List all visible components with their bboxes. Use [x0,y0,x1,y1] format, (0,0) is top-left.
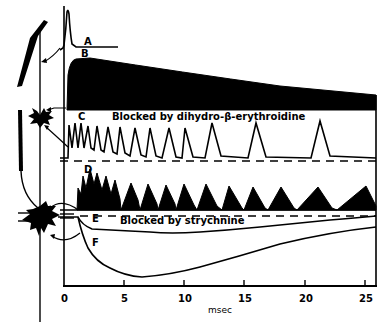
trace-e-label: E [92,213,99,224]
x-axis-unit: msec [208,305,232,315]
annotation-e-blocked: Blocked by strychnine [120,215,245,226]
x-tick-20: 20 [299,293,313,304]
x-tick-25: 25 [359,293,373,304]
x-tick-5: 5 [121,293,128,304]
axis-frame [63,6,377,287]
lower-fiber-icon [18,110,23,171]
trace-c-label: C [78,111,85,122]
annotation-c-blocked: Blocked by dihydro-β-erythroidine [112,111,306,122]
motoneuron-icon [22,201,60,236]
x-tick-10: 10 [178,293,192,304]
renshaw-figure: 0 5 10 15 20 25 msec A B C Blocked by di… [0,0,389,322]
trace-c [60,121,376,158]
trace-d [77,169,376,210]
trace-f-label: F [92,237,99,248]
x-tick-15: 15 [238,293,252,304]
motor-nerve-fiber-icon [17,20,48,87]
trace-b-label: B [81,48,89,59]
x-tick-0: 0 [61,293,68,304]
trace-b [67,58,376,110]
trace-a-label: A [84,36,92,47]
trace-f [78,217,376,277]
